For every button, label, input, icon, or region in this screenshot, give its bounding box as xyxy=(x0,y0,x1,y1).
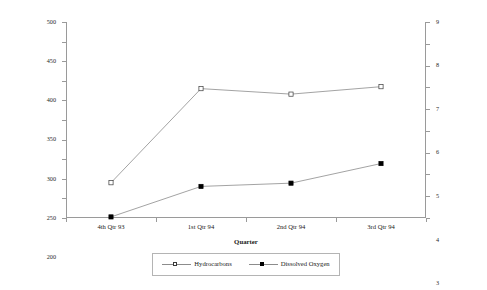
y-axis-right-tick-label: 9 xyxy=(436,19,439,25)
x-axis-tick-label: 2nd Qtr 94 xyxy=(277,224,306,231)
y-axis-right-tick: 5 xyxy=(426,109,430,110)
y-axis-right-tick-label: 5 xyxy=(436,193,439,199)
chart-figure: Hydrocarbon Concentration by EPA Method … xyxy=(0,0,487,290)
x-axis-tick xyxy=(426,218,427,222)
x-axis-tick xyxy=(66,218,67,222)
legend-swatch-filled-square-icon xyxy=(249,261,278,268)
y-axis-left-tick-label: 250 xyxy=(47,215,56,221)
legend-swatch-open-square-icon xyxy=(162,261,191,268)
y-axis-right-tick: 3 xyxy=(426,153,430,154)
y-axis-left-tick-label: 450 xyxy=(47,58,56,64)
plot-area: 050100150200250300350400450500 012345678… xyxy=(66,22,426,218)
data-point-marker xyxy=(199,184,203,188)
x-axis-tick xyxy=(336,218,337,222)
y-axis-left-tick-label: 400 xyxy=(47,97,56,103)
x-axis-title: Quarter xyxy=(66,238,426,245)
x-axis-tick xyxy=(156,218,157,222)
x-axis-tick-label: 3rd Qtr 94 xyxy=(367,224,394,231)
y-axis-right-title: Dissolved Oxygen (mg/L) xyxy=(466,0,474,22)
y-axis-right-tick: 4 xyxy=(426,131,430,132)
x-axis-tick-label: 1st Qtr 94 xyxy=(188,224,214,231)
y-axis-left-title-line1: Hydrocarbon Concentration by EPA Method … xyxy=(14,0,23,22)
legend-label-dissolved-oxygen: Dissolved Oxygen xyxy=(281,261,330,268)
legend-label-hydrocarbons: Hydrocarbons xyxy=(194,261,231,268)
y-axis-left-tick-label: 300 xyxy=(47,176,56,182)
y-axis-right-tick-label: 6 xyxy=(436,149,439,155)
y-axis-left-title: Hydrocarbon Concentration by EPA Method … xyxy=(14,0,36,22)
y-axis-left-tick-label: 350 xyxy=(47,136,56,142)
data-point-marker xyxy=(379,161,383,165)
y-axis-left-tick-label: 200 xyxy=(47,254,56,260)
y-axis-right-tick: 8 xyxy=(426,44,430,45)
chart-legend: Hydrocarbons Dissolved Oxygen xyxy=(152,253,340,276)
data-point-marker xyxy=(289,92,293,96)
y-axis-right-tick-label: 4 xyxy=(436,237,439,243)
y-axis-left-tick-label: 500 xyxy=(47,19,56,25)
data-point-marker xyxy=(109,181,113,185)
y-axis-right-tick-label: 7 xyxy=(436,106,439,112)
data-point-marker xyxy=(379,85,383,89)
legend-entry-hydrocarbons: Hydrocarbons xyxy=(162,261,231,268)
y-axis-left-title-line2: (µg/L) xyxy=(23,0,32,22)
x-axis-tick-label: 4th Qtr 93 xyxy=(97,224,124,231)
y-axis-right-tick: 7 xyxy=(426,66,430,67)
data-point-marker xyxy=(109,215,113,219)
data-point-marker xyxy=(199,87,203,91)
series-line-dissolved-oxygen xyxy=(111,164,381,217)
y-axis-right-tick-label: 8 xyxy=(436,62,439,68)
legend-entry-dissolved-oxygen: Dissolved Oxygen xyxy=(249,261,330,268)
data-point-marker xyxy=(289,181,293,185)
series-line-hydrocarbons xyxy=(111,87,381,183)
y-axis-right-tick: 1 xyxy=(426,196,430,197)
x-axis-tick xyxy=(246,218,247,222)
series-plot xyxy=(66,22,426,218)
y-axis-right-tick: 2 xyxy=(426,174,430,175)
y-axis-right-tick-label: 3 xyxy=(436,280,439,286)
y-axis-right-tick: 9 xyxy=(426,22,430,23)
y-axis-right-tick: 6 xyxy=(426,87,430,88)
